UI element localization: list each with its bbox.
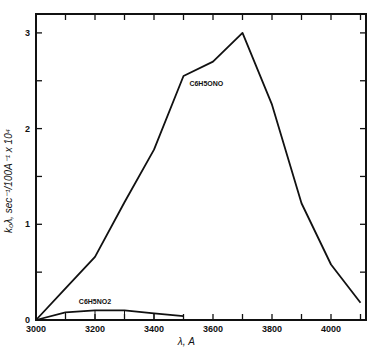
y-axis-label: k₀λ, sec⁻¹/100A⁻¹ x 10⁴: [3, 129, 14, 233]
y-tick-label: 1: [25, 219, 30, 229]
plot-border: [36, 14, 366, 320]
y-tick-label: 2: [25, 124, 30, 134]
x-tick-label: 4000: [321, 324, 341, 334]
line-chart: 3000320034003600380040000123 C6H5ONOC6H5…: [0, 0, 377, 350]
x-tick-label: 3400: [144, 324, 164, 334]
x-tick-label: 3200: [85, 324, 105, 334]
x-tick-label: 3000: [26, 324, 46, 334]
series-label-c6h5ono: C6H5ONO: [189, 80, 223, 87]
x-axis-label: λ, A: [177, 336, 195, 347]
data-series: C6H5ONOC6H5NO2: [36, 33, 361, 320]
series-line-c6h5ono: [36, 33, 361, 320]
axis-ticks: 3000320034003600380040000123: [25, 14, 366, 334]
plot-frame: [36, 14, 366, 320]
x-tick-label: 3600: [203, 324, 223, 334]
x-tick-label: 3800: [262, 324, 282, 334]
series-line-c6h5no2: [36, 310, 184, 320]
y-tick-label: 3: [25, 28, 30, 38]
y-tick-label: 0: [25, 315, 30, 325]
series-label-c6h5no2: C6H5NO2: [79, 298, 111, 305]
